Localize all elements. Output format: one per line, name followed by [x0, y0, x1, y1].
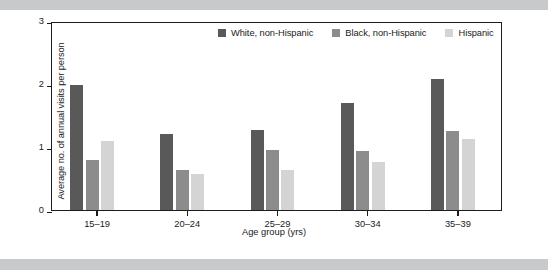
legend-item: White, non-Hispanic: [218, 28, 313, 38]
bar: [191, 174, 204, 210]
bar: [431, 79, 444, 210]
y-tick-mark: [47, 212, 52, 213]
chart-figure: Average no. of annual visits per person …: [0, 0, 548, 270]
legend-swatch-icon: [445, 29, 453, 37]
y-tick-label: 0: [39, 205, 44, 215]
x-tick-mark: [96, 210, 97, 216]
bar: [251, 130, 264, 210]
bar: [372, 162, 385, 211]
y-tick: 0: [35, 212, 52, 213]
x-tick-mark: [187, 210, 188, 216]
x-tick-mark: [367, 210, 368, 216]
bar: [70, 85, 83, 210]
legend-label: White, non-Hispanic: [231, 28, 313, 38]
chart-legend: White, non-HispanicBlack, non-HispanicHi…: [218, 28, 494, 38]
legend-swatch-icon: [218, 29, 226, 37]
bar: [160, 134, 173, 210]
bar: [281, 170, 294, 210]
bar: [101, 141, 114, 210]
y-tick-label: 1: [39, 142, 44, 152]
legend-item: Black, non-Hispanic: [332, 28, 426, 38]
y-tick-label: 2: [39, 79, 44, 89]
bar: [446, 131, 459, 210]
bar: [266, 150, 279, 210]
y-tick: 3: [35, 23, 52, 24]
plot-frame: Average no. of annual visits per person …: [51, 22, 502, 211]
legend-swatch-icon: [332, 29, 340, 37]
bar: [356, 151, 369, 210]
bar: [341, 103, 354, 210]
bar: [462, 139, 475, 210]
legend-label: Hispanic: [458, 28, 493, 38]
y-tick: 2: [35, 86, 52, 87]
bottom-gray-band: [0, 259, 548, 270]
legend-item: Hispanic: [445, 28, 493, 38]
bar: [86, 160, 99, 210]
y-tick-label: 3: [39, 16, 44, 26]
x-tick-mark: [457, 210, 458, 216]
x-tick-mark: [277, 210, 278, 216]
y-tick: 1: [35, 149, 52, 150]
top-gray-band: [0, 0, 548, 10]
bar: [176, 170, 189, 210]
legend-label: Black, non-Hispanic: [345, 28, 426, 38]
x-axis-title: Age group (yrs): [0, 227, 548, 237]
plot-area: [52, 23, 501, 210]
